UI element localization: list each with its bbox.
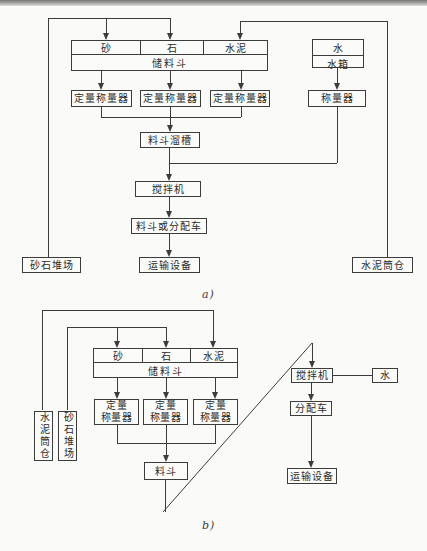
mixer-a: 搅拌机 [135,181,201,197]
water-weigher-a: 称量器 [308,90,366,107]
dosing-weigher-line2: 称量器 [101,412,133,424]
storage-hopper-b: 储料斗 [94,363,237,378]
water-b: 水 [372,368,398,383]
caption-a: a) [202,288,215,301]
transport-equipment-a: 运输设备 [139,257,200,273]
stone-cell-a: 石 [140,41,203,54]
dosing-weigher-1-b: 定量 称量器 [94,399,139,425]
dosing-weigher-1-a: 定量称量器 [71,90,132,107]
caption-b: b) [202,519,215,532]
dosing-weigher-line1: 定量 [155,400,176,412]
hopper-or-distribution-cart-a: 料斗或分配车 [131,218,207,234]
dosing-weigher-line2: 称量器 [150,412,182,424]
distribution-cart-b: 分配车 [290,401,332,416]
dosing-weigher-3-b: 定量 称量器 [193,399,238,425]
dosing-weigher-3-a: 定量称量器 [210,90,270,107]
water-tank-cell-a: 水箱 [313,55,363,71]
flow-connectors [0,0,427,551]
stone-cell-b: 石 [142,349,190,362]
aggregate-yard-a: 砂石堆场 [22,257,81,273]
mixer-b: 搅拌机 [291,368,333,383]
materials-storage-hopper-a: 砂 石 水泥 储料斗 [71,40,268,71]
dosing-weigher-2-b: 定量 称量器 [143,399,188,425]
materials-storage-hopper-b: 砂 石 水泥 储料斗 [93,348,238,378]
cement-silo-b: 水泥筒仓 [34,411,53,461]
storage-hopper-a: 储料斗 [72,55,267,70]
hopper-chute-a: 料斗溜槽 [140,132,200,148]
dosing-weigher-line1: 定量 [205,400,226,412]
sand-cell-b: 砂 [94,349,142,362]
scanned-page: 砂 石 水泥 储料斗 水 水箱 定量称量器 定量称量器 定量称量器 称量器 料斗… [0,0,427,551]
aggregate-yard-b: 砂石堆场 [58,411,77,461]
hopper-b: 料斗 [144,462,188,480]
cement-silo-a: 水泥筒仓 [352,257,413,273]
cement-cell-a: 水泥 [203,41,267,54]
water-cell-a: 水 [313,40,363,55]
dosing-weigher-line2: 称量器 [200,412,232,424]
cement-cell-b: 水泥 [190,349,237,362]
sand-cell-a: 砂 [72,41,140,54]
transport-equipment-b: 运输设备 [287,468,337,484]
dosing-weigher-line1: 定量 [106,400,127,412]
dosing-weigher-2-a: 定量称量器 [140,90,201,107]
water-tank-stack-a: 水 水箱 [312,39,364,68]
